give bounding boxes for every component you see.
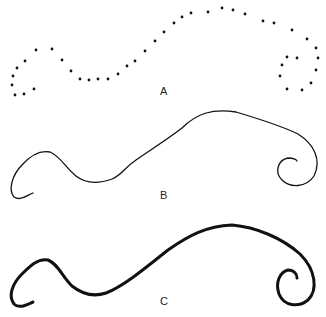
panel-b-label: B [160, 189, 167, 201]
curves-canvas [0, 0, 326, 317]
figure: A B C [0, 0, 326, 317]
panel-a-label: A [160, 85, 167, 97]
panel-a-dotted-curve [11, 7, 320, 97]
panel-b-thin-curve [11, 111, 317, 199]
panel-c-label: C [160, 295, 168, 307]
